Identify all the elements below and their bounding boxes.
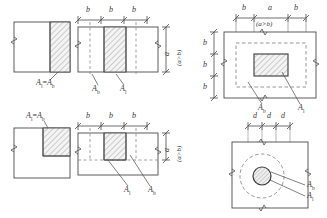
top-right-dim-b-v1: b <box>203 39 207 47</box>
top-left-area-equality-label: Al=Ab <box>36 79 55 89</box>
top-middle-dim-b-1: b <box>86 6 90 14</box>
top-right-dim-condition: (a>b) <box>256 21 272 28</box>
panel-bottom-middle-geometry <box>75 122 170 186</box>
top-middle-bearing-area-label: Ab <box>92 85 100 95</box>
bottom-right-loaded-area-label: Al <box>307 192 313 202</box>
bottom-right-dim-d-3: d <box>281 112 285 120</box>
top-middle-loaded-area-label: Al <box>120 85 126 95</box>
top-right-dim-b-v2: b <box>203 61 207 69</box>
top-right-dim-b-v3: b <box>203 83 207 91</box>
bottom-middle-loaded-area-label: Al <box>124 186 130 196</box>
bottom-middle-dim-condition: (a>b) <box>176 146 183 162</box>
top-middle-dim-condition: (a>b) <box>176 50 183 66</box>
top-middle-dim-b-2: b <box>109 6 113 14</box>
bottom-middle-dim-b-1: b <box>86 112 90 120</box>
bottom-middle-dim-b-2: b <box>109 112 113 120</box>
top-right-loaded-area-label: Al <box>298 104 304 114</box>
top-right-dim-b-right: b <box>294 4 298 12</box>
panel-top-middle-geometry <box>75 16 170 85</box>
bottom-right-dim-d-1: d <box>253 112 257 120</box>
bottom-left-area-equality-label: Al=Ab <box>26 112 45 122</box>
bottom-right-bearing-area-label: Ab <box>307 181 315 191</box>
top-right-bearing-area-label: Ab <box>258 104 266 114</box>
bottom-middle-dim-b-3: b <box>132 112 136 120</box>
bottom-middle-bearing-area-label: Ab <box>148 186 156 196</box>
top-middle-dim-a: a <box>163 52 171 56</box>
panel-bottom-right-geometry <box>229 122 311 211</box>
top-right-dim-b-left: b <box>242 4 246 12</box>
diagram-vector <box>0 0 327 218</box>
top-right-dim-a: a <box>268 4 272 12</box>
diagram-canvas: Al=Ab b b b a (a>b) Ab Al b a b (a>b) b … <box>0 0 327 218</box>
bottom-right-dim-d-2: d <box>267 112 271 120</box>
panel-top-left-geometry <box>11 22 70 80</box>
panel-bottom-left-geometry <box>11 121 70 178</box>
bottom-middle-dim-a: a <box>163 148 171 152</box>
top-middle-dim-b-3: b <box>132 6 136 14</box>
